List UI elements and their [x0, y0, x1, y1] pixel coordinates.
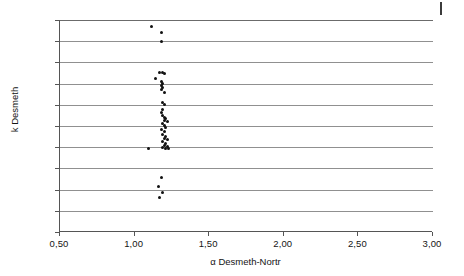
y-axis-title: k Desmeth	[9, 65, 20, 155]
gridline	[60, 105, 433, 106]
gridline	[60, 168, 433, 169]
data-point	[150, 25, 153, 28]
x-tick-label: 1,00	[111, 238, 157, 249]
x-tick-mark	[208, 232, 209, 236]
gridline	[60, 20, 433, 21]
data-point	[160, 176, 163, 179]
gridline	[60, 147, 433, 148]
x-tick-label: 1,50	[185, 238, 231, 249]
x-tick-label: 3,00	[409, 238, 455, 249]
data-point	[158, 196, 161, 199]
gridline	[60, 190, 433, 191]
data-point	[160, 31, 163, 34]
gridline	[60, 84, 433, 85]
plot-area	[59, 20, 432, 232]
x-axis-title: α Desmeth-Nortr	[59, 256, 432, 267]
corner-tick-mark	[440, 2, 442, 15]
gridline	[60, 62, 433, 63]
x-tick-mark	[432, 232, 433, 236]
data-point	[154, 77, 157, 80]
x-tick-mark	[357, 232, 358, 236]
x-tick-mark	[59, 232, 60, 236]
data-point	[163, 91, 166, 94]
data-point	[167, 147, 170, 150]
data-point	[164, 126, 167, 129]
x-tick-label: 2,00	[260, 238, 306, 249]
x-tick-label: 2,50	[334, 238, 380, 249]
data-point	[166, 138, 169, 141]
data-point	[161, 191, 164, 194]
x-tick-mark	[283, 232, 284, 236]
gridline	[60, 126, 433, 127]
data-point	[163, 103, 166, 106]
scatter-chart: k Desmeth 0,001,002,003,004,005,006,007,…	[0, 0, 464, 276]
data-point	[166, 120, 169, 123]
x-tick-label: 0,50	[36, 238, 82, 249]
gridline	[60, 41, 433, 42]
data-point	[147, 147, 150, 150]
data-point	[160, 40, 163, 43]
x-tick-mark	[134, 232, 135, 236]
data-point	[163, 72, 166, 75]
data-point	[157, 185, 160, 188]
gridline	[60, 211, 433, 212]
